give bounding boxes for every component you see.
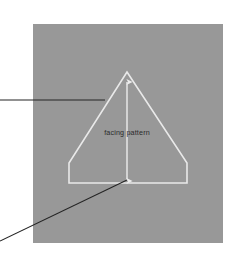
figure-canvas: facing pattern bbox=[0, 0, 236, 260]
facing-pattern-diagram: facing pattern bbox=[0, 0, 236, 260]
facing-pattern-label: facing pattern bbox=[104, 128, 150, 137]
